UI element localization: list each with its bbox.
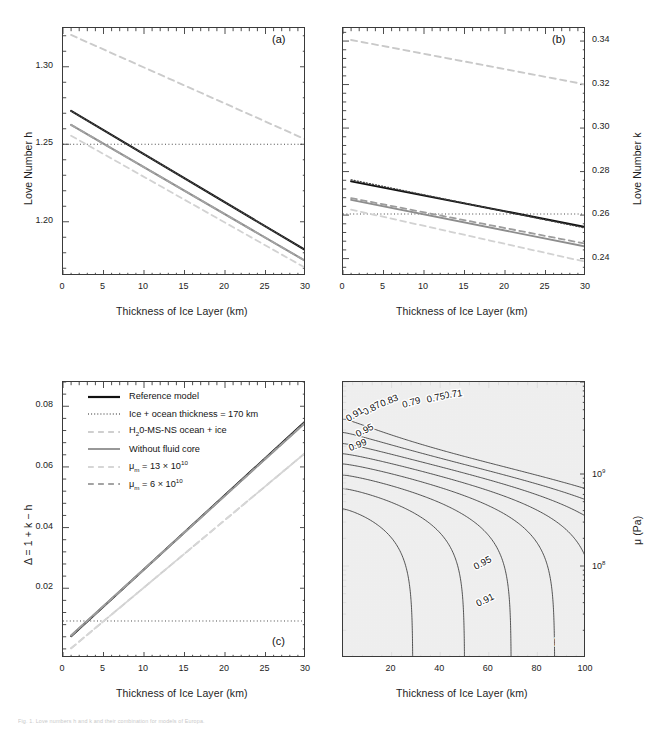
x-tick-label: 80 xyxy=(522,663,550,673)
x-tick-label: 30 xyxy=(571,281,599,291)
x-tick-label: 25 xyxy=(251,281,279,291)
x-tick-label: 20 xyxy=(377,663,405,673)
legend-item: Ice + ocean thickness = 170 km xyxy=(88,406,258,424)
x-tick-label: 15 xyxy=(170,663,198,673)
legend-item: Without fluid core xyxy=(88,441,258,459)
x-tick-label: 40 xyxy=(425,663,453,673)
legend-key-swatch xyxy=(88,444,120,454)
x-tick-label: 30 xyxy=(291,281,319,291)
legend-item-label: μm = 6 × 1010 xyxy=(129,478,183,491)
legend-item-label: Without fluid core xyxy=(129,445,200,454)
x-tick-label: 20 xyxy=(490,281,518,291)
legend-key-swatch xyxy=(88,427,120,437)
x-tick-label: 0 xyxy=(328,281,356,291)
figure-caption: Fig. 1. Love numbers h and k and their c… xyxy=(18,718,632,728)
legend: Reference modelIce + ocean thickness = 1… xyxy=(88,388,258,493)
y-tick-label: 0.32 xyxy=(592,78,610,88)
y-tick-label: 0.24 xyxy=(592,252,610,262)
y-tick-label: 0.06 xyxy=(0,460,53,470)
legend-item: μm = 6 × 1010 xyxy=(88,476,258,494)
x-tick-label: 60 xyxy=(474,663,502,673)
series-line xyxy=(71,111,305,251)
y-tick-label: 0.28 xyxy=(592,165,610,175)
legend-item-label: H20-MS-NS ocean + ice xyxy=(129,426,227,437)
x-tick-label: 5 xyxy=(89,281,117,291)
y-tick-label: 0.26 xyxy=(592,208,610,218)
x-tick-label: 20 xyxy=(210,663,238,673)
x-tick-label: 25 xyxy=(251,663,279,673)
y-tick-label: 0.02 xyxy=(0,581,53,591)
panel-d: 0.710.710.750.750.790.790.830.830.870.87… xyxy=(325,330,650,690)
legend-key-swatch xyxy=(88,409,120,419)
x-tick-label: 20 xyxy=(210,281,238,291)
panel-d-plot-area: 0.710.710.750.750.790.790.830.830.870.87… xyxy=(342,381,585,657)
panel-d-canvas: 0.710.710.750.750.790.790.830.830.870.87… xyxy=(343,382,585,657)
x-tick-label: 30 xyxy=(291,663,319,673)
y-tick-label: 0.08 xyxy=(0,399,53,409)
x-tick-label: 15 xyxy=(450,281,478,291)
x-tick-label: 5 xyxy=(89,663,117,673)
x-tick-label: 0 xyxy=(48,663,76,673)
panel-b-y-axis-title: Love Number k xyxy=(631,133,643,206)
y-tick-label: 0.04 xyxy=(0,521,53,531)
panel-d-tag: (d) xyxy=(552,635,565,647)
x-tick-label: 0 xyxy=(48,281,76,291)
panel-b-plot-area xyxy=(342,27,585,275)
x-tick-label: 10 xyxy=(129,663,157,673)
y-tick-label: 108 xyxy=(592,559,605,571)
legend-item: Reference model xyxy=(88,388,258,406)
series-line xyxy=(351,210,585,262)
y-tick-label: 1.25 xyxy=(0,137,53,147)
series-line xyxy=(351,40,585,85)
panel-c: (c) Δ = 1 + k − h Thickness of Ice Layer… xyxy=(0,330,325,690)
panel-c-tag: (c) xyxy=(272,635,285,647)
panel-a-tag: (a) xyxy=(272,33,285,45)
legend-key-swatch xyxy=(88,462,120,472)
x-tick-label: 15 xyxy=(170,281,198,291)
panel-a: (a) Love Number h Thickness of Ice Layer… xyxy=(0,0,325,330)
panel-a-canvas xyxy=(63,28,305,275)
x-tick-label: 5 xyxy=(369,281,397,291)
panel-d-x-axis-title: Thickness of Ice Layer (km) xyxy=(396,687,528,699)
panel-b-x-axis-title: Thickness of Ice Layer (km) xyxy=(396,305,528,317)
x-tick-label: 25 xyxy=(531,281,559,291)
x-tick-label: 10 xyxy=(129,281,157,291)
panel-d-y-axis-title: μ (Pa) xyxy=(631,516,643,545)
y-tick-label: 0.30 xyxy=(592,121,610,131)
legend-key-swatch xyxy=(88,479,120,489)
legend-key-swatch xyxy=(88,392,120,402)
figure-root: (a) Love Number h Thickness of Ice Layer… xyxy=(0,0,650,737)
legend-item: H20-MS-NS ocean + ice xyxy=(88,423,258,441)
y-tick-label: 0.34 xyxy=(592,34,610,44)
legend-item-label: Reference model xyxy=(129,392,199,401)
series-line xyxy=(71,136,305,269)
legend-item-label: Ice + ocean thickness = 170 km xyxy=(129,410,258,419)
panel-a-plot-area xyxy=(62,27,305,275)
panel-b-tag: (b) xyxy=(552,33,565,45)
panel-b: (b) Love Number k Thickness of Ice Layer… xyxy=(325,0,650,330)
panel-b-canvas xyxy=(343,28,585,275)
x-tick-label: 10 xyxy=(409,281,437,291)
series-line xyxy=(351,180,585,228)
series-line xyxy=(71,35,305,140)
legend-item-label: μm = 13 × 1010 xyxy=(129,460,188,473)
panel-a-x-axis-title: Thickness of Ice Layer (km) xyxy=(116,305,248,317)
y-tick-label: 109 xyxy=(592,467,605,479)
y-tick-label: 1.20 xyxy=(0,215,53,225)
y-tick-label: 1.30 xyxy=(0,60,53,70)
legend-item: μm = 13 × 1010 xyxy=(88,458,258,476)
panel-c-y-axis-title: Δ = 1 + k − h xyxy=(22,504,34,565)
panel-c-x-axis-title: Thickness of Ice Layer (km) xyxy=(116,687,248,699)
x-tick-label: 100 xyxy=(571,663,599,673)
series-line xyxy=(351,200,585,247)
